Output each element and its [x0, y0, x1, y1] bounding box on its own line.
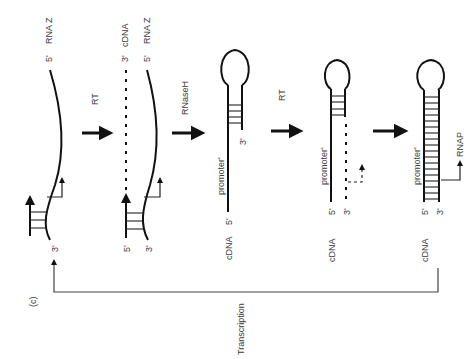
arrow-rt-2-label: RT [277, 89, 287, 101]
rna-z-5prime-label: 5' [44, 55, 54, 62]
rna-z-3prime-label: 3' [50, 245, 60, 252]
cdna-5prime-label-4: 5' [327, 208, 337, 215]
hairpin-3prime-label: 3' [238, 138, 248, 145]
transcription-label: Transcription [236, 303, 246, 355]
step-2-cdna-rna-hybrid: 3' cDNA 5' RNA Z 5' 3' [120, 17, 160, 252]
cdna-3prime-label-5: 3' [435, 208, 445, 215]
cdna-5prime-label: 5' [122, 245, 132, 252]
arrow-rt-1: RT [82, 93, 106, 133]
rna-z-label-2: RNA Z [142, 17, 152, 44]
promoter-prime-label-5: promoter' [412, 147, 422, 185]
arrow-rnaseh: RNaseH [172, 81, 198, 133]
panel-label: (c) [28, 297, 38, 308]
feedback-arrow [54, 262, 438, 292]
partial-transcription-arrow [348, 167, 362, 182]
rna-z-strand [46, 70, 62, 240]
full-duplex-rungs [424, 97, 439, 199]
rna-z-label: RNA Z [44, 17, 54, 44]
transcription-feedback-loop: Transcription [54, 262, 438, 355]
rna-3prime-label: 3' [144, 245, 154, 252]
hairpin-loop [221, 50, 249, 85]
step-1-rna-z: 5' RNA Z 3' [30, 17, 62, 252]
step-3-cdna-hairpin: 3' promoter' 5' cDNA [216, 50, 249, 260]
step-5-double-stranded-promoter: RNAP promoter' 5' 3' cDNA [412, 60, 465, 262]
rna-z-strand-2 [143, 70, 157, 240]
hairpin-loop-4 [325, 60, 350, 89]
hairpin-loop-5 [417, 60, 444, 90]
arrow-rt-2: RT [271, 89, 296, 131]
cdna-label: cDNA [120, 23, 130, 47]
promoter-prime-label-4: promoter' [319, 147, 329, 185]
cdna-3prime-label-4: 3' [342, 208, 352, 215]
cdna-label-3: cDNA [224, 236, 234, 260]
arrow-rt-1-label: RT [90, 93, 100, 105]
cdna-5prime-label-5: 5' [420, 208, 430, 215]
rnap-label: RNAP [455, 132, 465, 157]
cdna-label-4: cDNA [327, 238, 337, 262]
amplification-cycle-diagram: 5' RNA Z 3' RT 3' cDNA 5' RNA Z 5' 3' RN… [0, 0, 474, 359]
promoter-prime-label: promoter' [216, 157, 226, 195]
arrow-rnaseh-label: RNaseH [180, 81, 190, 115]
rna-z-5prime-label-2: 5' [142, 55, 152, 62]
step-4-partial-extension: promoter' 5' 3' cDNA [319, 60, 362, 262]
cdna-5prime-label-3: 5' [224, 218, 234, 225]
rnap-transcription-arrow [441, 163, 460, 180]
cdna-label-5: cDNA [420, 238, 430, 262]
cdna-3prime-label: 3' [120, 55, 130, 62]
